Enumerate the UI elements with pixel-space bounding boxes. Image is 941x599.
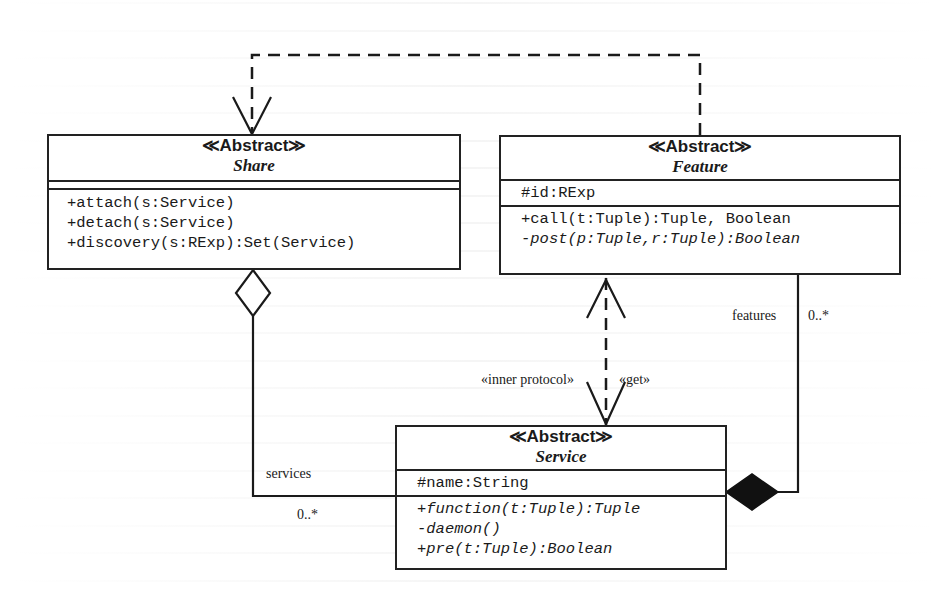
attributes-compartment: #id:RExp: [501, 179, 899, 205]
operations-compartment: +function(t:Tuple):Tuple -daemon() +pre(…: [397, 495, 725, 559]
class-service-header: ≪Abstract≫ Service: [397, 427, 725, 467]
attribute: #name:String: [397, 473, 725, 493]
label-inner-protocol: «inner protocol»: [481, 372, 574, 388]
operation: +attach(s:Service): [49, 193, 459, 213]
operations-compartment: +attach(s:Service) +detach(s:Service) +d…: [49, 188, 459, 253]
label-get: «get»: [619, 372, 650, 388]
attributes-compartment: [49, 180, 459, 188]
operation: +detach(s:Service): [49, 213, 459, 233]
hollow-diamond-icon: [236, 270, 270, 316]
class-share-header: ≪Abstract≫ Share: [49, 136, 459, 176]
operation: +pre(t:Tuple):Boolean: [397, 539, 725, 559]
class-feature[interactable]: ≪Abstract≫ Feature #id:RExp +call(t:Tupl…: [499, 135, 901, 275]
attribute: #id:RExp: [501, 183, 899, 203]
operation: +function(t:Tuple):Tuple: [397, 499, 725, 519]
class-name: Share: [49, 156, 459, 176]
stereotype-label: ≪Abstract≫: [501, 137, 899, 157]
operation: +discovery(s:RExp):Set(Service): [49, 233, 459, 253]
class-feature-header: ≪Abstract≫ Feature: [501, 137, 899, 177]
role-features: features: [732, 308, 776, 324]
role-services: services: [266, 466, 311, 482]
dependency-feature-share-line: [252, 55, 700, 135]
class-name: Feature: [501, 157, 899, 177]
class-service[interactable]: ≪Abstract≫ Service #name:String +functio…: [395, 425, 727, 570]
filled-diamond-icon: [726, 474, 778, 510]
composition-service-feature-line: [778, 275, 798, 492]
operations-compartment: +call(t:Tuple):Tuple, Boolean -post(p:Tu…: [501, 205, 899, 249]
operation: +call(t:Tuple):Tuple, Boolean: [501, 209, 899, 229]
operation: -daemon(): [397, 519, 725, 539]
class-share[interactable]: ≪Abstract≫ Share +attach(s:Service) +det…: [47, 134, 461, 270]
multiplicity-services: 0..*: [297, 507, 318, 523]
multiplicity-features: 0..*: [808, 308, 829, 324]
stereotype-label: ≪Abstract≫: [397, 427, 725, 447]
attributes-compartment: #name:String: [397, 469, 725, 495]
stereotype-label: ≪Abstract≫: [49, 136, 459, 156]
operation: -post(p:Tuple,r:Tuple):Boolean: [501, 229, 899, 249]
class-name: Service: [397, 447, 725, 467]
